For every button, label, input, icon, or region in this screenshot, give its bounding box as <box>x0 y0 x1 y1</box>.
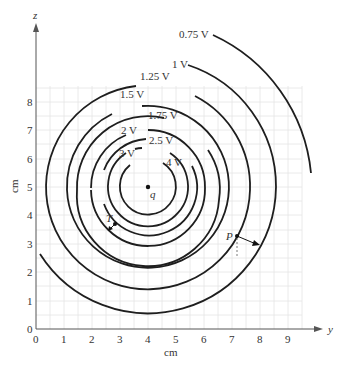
point-p-label: P <box>225 230 233 242</box>
x-tick: 6 <box>201 333 207 345</box>
z-tick-labels: 0 1 2 3 4 5 6 7 8 <box>27 96 33 335</box>
x-tick: 9 <box>285 333 291 345</box>
y-axis-arrow-icon <box>314 326 323 332</box>
y-axis-name: y <box>327 323 333 335</box>
point-p-arrow-icon <box>252 240 260 246</box>
z-tick: 6 <box>27 153 33 165</box>
equipotential-figure: y z cm cm 0 1 2 3 4 5 6 7 8 9 0 1 2 3 4 … <box>0 0 341 371</box>
z-tick: 5 <box>27 181 33 193</box>
point-t-label: T <box>106 212 113 224</box>
label-2v: 2 V <box>121 124 137 136</box>
x-tick: 7 <box>229 333 235 345</box>
x-tick: 4 <box>145 333 151 345</box>
z-tick: 4 <box>27 209 33 221</box>
equipotential-3v-top <box>135 148 142 149</box>
label-1-5v: 1.5 V <box>120 88 144 100</box>
z-tick: 3 <box>27 238 33 250</box>
equipotential-curves <box>40 35 311 313</box>
z-axis-arrow-icon <box>33 23 39 32</box>
grid <box>36 86 302 329</box>
label-4v: 4 V <box>166 156 182 168</box>
z-tick: 0 <box>27 323 33 335</box>
x-tick-labels: 0 1 2 3 4 5 6 7 8 9 <box>33 333 291 345</box>
x-tick: 0 <box>33 333 39 345</box>
label-1-25v: 1.25 V <box>140 70 170 82</box>
z-tick: 1 <box>27 295 33 307</box>
voltage-labels: 4 V 3 V 2.5 V 2 V 1.75 V 1.5 V 1.25 V 1 … <box>119 28 209 168</box>
z-tick: 7 <box>27 124 33 136</box>
x-tick: 8 <box>257 333 263 345</box>
x-tick: 2 <box>89 333 95 345</box>
equipotential-0-75v <box>213 35 311 173</box>
label-2-5v: 2.5 V <box>149 134 173 146</box>
label-1v: 1 V <box>172 58 188 70</box>
label-3v: 3 V <box>119 147 135 159</box>
label-0-75v: 0.75 V <box>179 28 209 40</box>
x-tick: 5 <box>173 333 179 345</box>
axes: y z cm cm <box>8 9 333 358</box>
z-axis-name: z <box>32 9 38 21</box>
label-1-75v: 1.75 V <box>148 109 178 121</box>
x-unit-label: cm <box>164 346 178 358</box>
y-unit-label: cm <box>8 179 20 193</box>
x-tick: 1 <box>61 333 67 345</box>
z-tick: 8 <box>27 96 33 108</box>
z-tick: 2 <box>27 266 33 278</box>
charge-label: q <box>150 188 156 200</box>
x-tick: 3 <box>117 333 123 345</box>
